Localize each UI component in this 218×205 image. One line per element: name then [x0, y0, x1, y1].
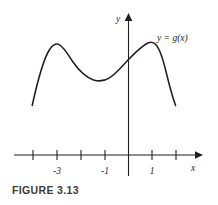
- y-axis-arrowhead: [125, 13, 133, 21]
- y-axis-label: y: [115, 14, 121, 24]
- x-axis-label: x: [190, 163, 196, 173]
- x-tick-label-pos1: 1: [150, 166, 155, 176]
- x-tick-label-neg3: -3: [53, 166, 61, 176]
- figure-caption: FIGURE 3.13: [12, 184, 79, 196]
- figure-container: -3 -1 1 x y y = g(x) FIGURE 3.13: [0, 0, 218, 205]
- x-axis-arrowhead: [195, 151, 203, 159]
- x-tick-label-neg1: -1: [101, 166, 109, 176]
- function-curve: [32, 42, 175, 105]
- graph-plot: -3 -1 1 x y y = g(x): [0, 0, 218, 205]
- curve-equation-label: y = g(x): [156, 33, 188, 44]
